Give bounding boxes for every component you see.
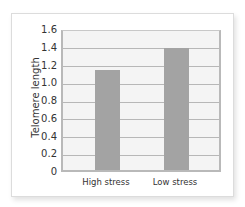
y-tick-0.2: 0.2 (33, 149, 57, 159)
gridline (63, 137, 219, 138)
x-tick-high-stress: High stress (71, 177, 141, 187)
y-tick-1.6: 1.6 (33, 25, 57, 35)
y-tick-1.4: 1.4 (33, 43, 57, 53)
plot-area (61, 30, 221, 172)
gridline (63, 102, 219, 103)
gridline (63, 155, 219, 156)
gridline (63, 48, 219, 49)
bar-high-stress (95, 70, 120, 170)
y-tick-0: 0 (33, 167, 57, 177)
gridline (63, 66, 219, 67)
y-tick-0.4: 0.4 (33, 132, 57, 142)
y-tick-0.6: 0.6 (33, 114, 57, 124)
y-tick-1.2: 1.2 (33, 61, 57, 71)
y-tick-1.0: 1.0 (33, 78, 57, 88)
x-tick-low-stress: Low stress (140, 177, 210, 187)
y-tick-0.8: 0.8 (33, 96, 57, 106)
gridline (63, 119, 219, 120)
bar-low-stress (164, 48, 189, 170)
gridline (63, 84, 219, 85)
